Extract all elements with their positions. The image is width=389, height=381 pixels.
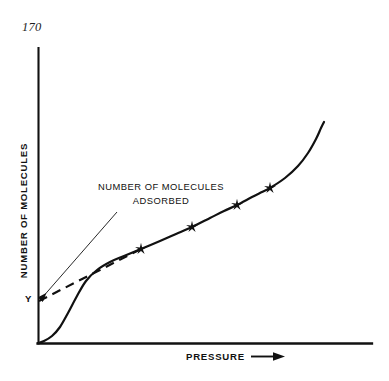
y-intercept-label: Y xyxy=(25,293,32,304)
x-axis-label: PRESSURE xyxy=(186,351,245,362)
annotation-leader-line xyxy=(41,212,117,299)
y-axis-label: NUMBER OF MOLECULES xyxy=(18,116,29,306)
star-marker-icon xyxy=(186,221,198,232)
adsorption-isotherm-figure: NUMBER OF MOLECULES PRESSURE NUMBER OF M… xyxy=(0,0,389,381)
x-axis-label-group: PRESSURE xyxy=(186,351,285,362)
annotation-line-2: ADSORBED xyxy=(133,195,190,206)
right-arrow-icon xyxy=(251,352,285,361)
figure-page: 170 NU xyxy=(0,0,389,381)
annotation-line-1: NUMBER OF MOLECULES xyxy=(98,181,224,192)
isotherm-curve xyxy=(38,122,324,343)
annotation-text: NUMBER OF MOLECULES ADSORBED xyxy=(75,180,247,207)
